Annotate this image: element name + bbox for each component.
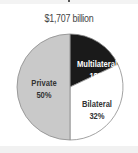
slice-percent-multilateral: 18%	[89, 70, 105, 81]
slice-label-multilateral: Multilateral	[77, 58, 117, 69]
slice-label-bilateral: Bilateral	[82, 98, 112, 109]
bottom-border	[0, 146, 138, 153]
slice-percent-bilateral: 32%	[89, 110, 105, 121]
slice-percent-private: 50%	[36, 89, 52, 100]
slice-label-private: Private	[31, 77, 57, 88]
pie-chart: Multilateral18%Bilateral32%Private50%	[0, 0, 138, 153]
